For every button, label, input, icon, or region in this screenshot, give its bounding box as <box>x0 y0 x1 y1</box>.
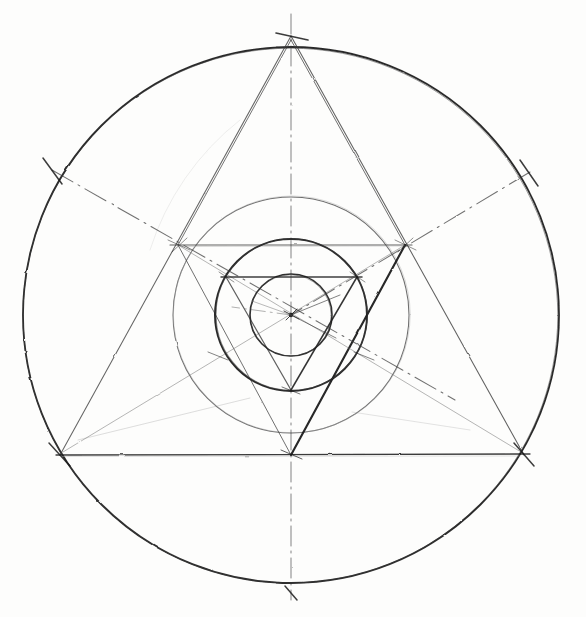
spoke-top-to-mid-left <box>178 40 291 245</box>
geometric-construction-figure: Geometric construction: nested circles a… <box>0 0 586 617</box>
ghost-arc-upper-left <box>150 120 240 250</box>
ghost-construction-layer <box>78 120 470 440</box>
vertex-nodes-group <box>168 238 416 459</box>
node-circumcircle-right <box>354 352 374 360</box>
ne-centre-line-arm <box>291 172 530 315</box>
spoke-top-to-mid-right <box>291 40 405 245</box>
spoke-mid-left-to-bottom-right <box>178 245 521 452</box>
spoke-mid-right-to-bottom-left <box>63 245 405 452</box>
centre-lines-group <box>52 14 530 600</box>
nw-se-centre-line <box>52 170 455 400</box>
ghost-baseline-left <box>78 398 250 440</box>
ghost-baseline-right <box>352 412 470 430</box>
drawing-canvas: Geometric construction: nested circles a… <box>0 0 586 617</box>
tick-upper-left <box>43 158 62 184</box>
tick-top <box>276 33 308 40</box>
mid-triangle-top-edge-overdraw <box>182 246 402 247</box>
